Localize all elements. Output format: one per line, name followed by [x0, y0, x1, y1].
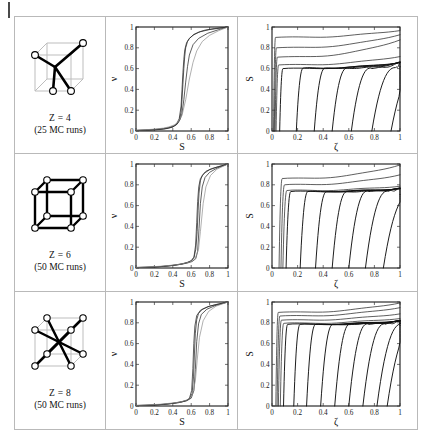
svg-text:0.4: 0.4: [125, 86, 134, 94]
svg-text:1: 1: [226, 134, 230, 142]
svg-text:0.6: 0.6: [344, 409, 353, 417]
svg-text:0.8: 0.8: [261, 181, 270, 189]
svg-text:0.8: 0.8: [205, 271, 214, 279]
svg-text:0.8: 0.8: [125, 44, 134, 52]
svg-text:S: S: [179, 278, 185, 289]
svg-text:0: 0: [270, 271, 274, 279]
svg-text:0.6: 0.6: [125, 202, 134, 210]
lattice-runs-label-z6: (50 MC runs): [34, 262, 86, 274]
right-plot-cell-z6: 00.20.40.60.8100.20.40.60.81ζS: [238, 154, 418, 292]
svg-text:0.6: 0.6: [261, 65, 270, 73]
svg-text:0.6: 0.6: [187, 134, 196, 142]
svg-text:S: S: [244, 76, 255, 82]
svg-text:0.4: 0.4: [319, 134, 328, 142]
svg-text:0: 0: [130, 265, 134, 273]
svg-text:1: 1: [130, 299, 134, 307]
svg-text:0.8: 0.8: [205, 409, 214, 417]
lattice-runs-label-z8: (50 MC runs): [34, 400, 86, 412]
middle-plot-cell-z4: 00.20.40.60.8100.20.40.60.81Sν: [106, 16, 238, 154]
svg-text:1: 1: [130, 24, 134, 32]
svg-text:0.8: 0.8: [125, 181, 134, 189]
page-corner-mark: [8, 2, 10, 18]
svg-text:0.6: 0.6: [261, 340, 270, 348]
svg-text:0.6: 0.6: [261, 202, 270, 210]
svg-text:1: 1: [398, 409, 402, 417]
svg-text:1: 1: [226, 409, 230, 417]
svg-text:ζ: ζ: [334, 141, 338, 153]
svg-text:S: S: [244, 213, 255, 219]
svg-text:0.2: 0.2: [261, 107, 270, 115]
svg-text:0.4: 0.4: [125, 223, 134, 231]
svg-text:0: 0: [270, 134, 274, 142]
svg-text:0.8: 0.8: [261, 44, 270, 52]
svg-text:0: 0: [266, 265, 270, 273]
lattice-diagram-z6: [21, 168, 99, 244]
svg-text:0: 0: [130, 128, 134, 136]
svg-text:0.6: 0.6: [344, 134, 353, 142]
lattice-diagram-z4: [21, 31, 99, 107]
figure-root: Z = 4 (25 MC runs) 00.20.40.60.8100.20.4…: [0, 0, 432, 440]
svg-text:0.4: 0.4: [168, 134, 177, 142]
svg-text:ν: ν: [108, 351, 119, 356]
svg-text:0.2: 0.2: [261, 244, 270, 252]
lattice-cell-z6: Z = 6 (50 MC runs): [14, 154, 106, 292]
svg-text:S: S: [244, 351, 255, 357]
chart-nu-vs-s-z4: 00.20.40.60.8100.20.40.60.81Sν: [106, 17, 238, 155]
svg-text:0.6: 0.6: [125, 340, 134, 348]
svg-text:0: 0: [134, 409, 138, 417]
lattice-caption-z8: Z = 8 (50 MC runs): [34, 388, 86, 412]
svg-text:0.4: 0.4: [125, 361, 134, 369]
lattice-caption-z6: Z = 6 (50 MC runs): [34, 250, 86, 274]
right-plot-cell-z8: 00.20.40.60.8100.20.40.60.81ζS: [238, 292, 418, 430]
svg-text:0.4: 0.4: [319, 409, 328, 417]
svg-text:0.2: 0.2: [293, 134, 302, 142]
svg-text:0.4: 0.4: [168, 409, 177, 417]
lattice-z-label-z8: Z = 8: [34, 388, 86, 400]
svg-text:1: 1: [130, 161, 134, 169]
svg-text:1: 1: [226, 271, 230, 279]
svg-text:0.2: 0.2: [293, 271, 302, 279]
svg-text:1: 1: [266, 299, 270, 307]
svg-text:0.2: 0.2: [150, 409, 159, 417]
svg-text:0.4: 0.4: [261, 86, 270, 94]
chart-nu-vs-s-z8: 00.20.40.60.8100.20.40.60.81Sν: [106, 292, 238, 430]
svg-text:0: 0: [266, 128, 270, 136]
lattice-caption-z4: Z = 4 (25 MC runs): [34, 113, 86, 137]
panel-grid: Z = 4 (25 MC runs) 00.20.40.60.8100.20.4…: [14, 16, 418, 430]
lattice-cell-z8: Z = 8 (50 MC runs): [14, 292, 106, 430]
svg-text:0.8: 0.8: [261, 319, 270, 327]
svg-text:0.6: 0.6: [344, 271, 353, 279]
svg-text:0.2: 0.2: [150, 134, 159, 142]
chart-s-vs-zeta-z4: 00.20.40.60.8100.20.40.60.81ζS: [238, 17, 418, 155]
svg-text:0: 0: [130, 403, 134, 411]
svg-text:ν: ν: [108, 213, 119, 218]
svg-text:ζ: ζ: [334, 416, 338, 428]
chart-nu-vs-s-z6: 00.20.40.60.8100.20.40.60.81Sν: [106, 154, 238, 292]
svg-text:S: S: [179, 416, 185, 427]
svg-text:0.2: 0.2: [293, 409, 302, 417]
svg-text:1: 1: [398, 271, 402, 279]
svg-text:0.6: 0.6: [187, 271, 196, 279]
svg-text:0.2: 0.2: [261, 382, 270, 390]
svg-text:1: 1: [398, 134, 402, 142]
svg-text:ν: ν: [108, 76, 119, 81]
svg-text:1: 1: [266, 24, 270, 32]
svg-text:0.2: 0.2: [125, 382, 134, 390]
lattice-z-label-z4: Z = 4: [34, 113, 86, 125]
svg-text:0.2: 0.2: [125, 107, 134, 115]
svg-text:S: S: [179, 141, 185, 152]
svg-text:0.4: 0.4: [319, 271, 328, 279]
lattice-runs-label-z4: (25 MC runs): [34, 125, 86, 137]
svg-text:0.4: 0.4: [261, 223, 270, 231]
chart-s-vs-zeta-z8: 00.20.40.60.8100.20.40.60.81ζS: [238, 292, 418, 430]
svg-text:0.2: 0.2: [150, 271, 159, 279]
svg-text:0.6: 0.6: [187, 409, 196, 417]
lattice-cell-z4: Z = 4 (25 MC runs): [14, 16, 106, 154]
svg-text:0.8: 0.8: [125, 319, 134, 327]
svg-text:0.2: 0.2: [125, 244, 134, 252]
lattice-diagram-z8: [21, 306, 99, 382]
middle-plot-cell-z8: 00.20.40.60.8100.20.40.60.81Sν: [106, 292, 238, 430]
svg-text:0.4: 0.4: [168, 271, 177, 279]
svg-text:0: 0: [134, 134, 138, 142]
svg-text:0: 0: [270, 409, 274, 417]
